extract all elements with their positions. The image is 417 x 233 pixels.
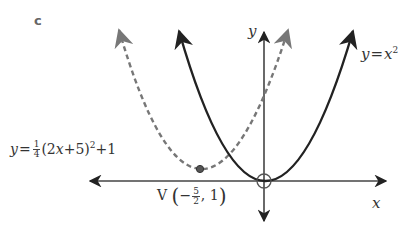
vertex-x-fraction: 52 xyxy=(192,187,200,206)
part-label: c xyxy=(34,14,42,27)
graph-figure: c y x y=x2 y=14(2x+5)2+1 V (−52, 1) xyxy=(0,0,417,233)
vertex-dot-icon xyxy=(196,165,203,172)
base-parabola-equation: y=x2 xyxy=(361,46,398,62)
transformed-parabola-equation: y=14(2x+5)2+1 xyxy=(10,140,116,159)
vertex-label: V (−52, 1) xyxy=(157,186,227,206)
y-axis-label: y xyxy=(248,24,256,39)
base-parabola-curve xyxy=(179,31,353,181)
transformed-parabola-curve xyxy=(119,30,288,169)
coefficient-fraction: 14 xyxy=(33,140,41,159)
x-axis-label: x xyxy=(372,196,380,211)
